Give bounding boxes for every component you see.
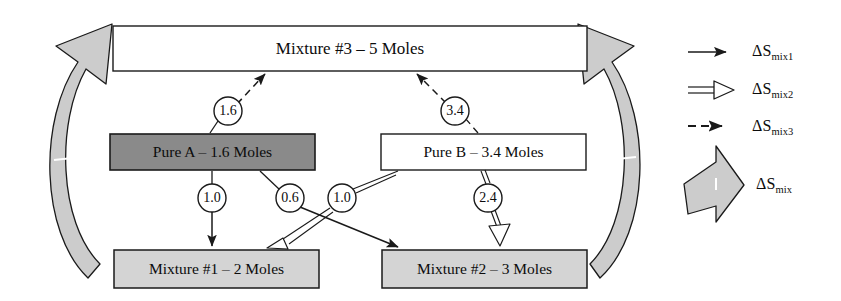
legend-label-dSmix: ΔSmix [756, 175, 792, 195]
legend-sub-dSmix2: mix2 [772, 89, 794, 100]
legend-base-dSmix: ΔS [756, 175, 776, 192]
node-box-pureB [381, 134, 586, 170]
diagram-canvas: Mixture #3 – 5 Moles Pure A – 1.6 Moles … [0, 0, 841, 301]
legend-base-dSmix2: ΔS [752, 80, 772, 97]
edge-pureB-mixture3 [417, 74, 478, 133]
node-box-mixture2 [382, 250, 587, 288]
legend-sub-dSmix1: mix1 [772, 51, 794, 62]
legend-base-dSmix3: ΔS [752, 117, 772, 134]
legend-base-dSmix1: ΔS [752, 42, 772, 59]
legend-sub-dSmix3: mix3 [772, 126, 794, 137]
legend-glyph-dSmix2 [688, 81, 734, 99]
diagram-svg [0, 0, 841, 301]
legend-sub-dSmix: mix [776, 184, 792, 195]
legend-label-dSmix2: ΔSmix2 [752, 80, 793, 100]
legend-glyph-dSmix [684, 146, 744, 222]
edge-pureA-mixture3 [210, 74, 265, 133]
legend-label-dSmix3: ΔSmix3 [752, 117, 793, 137]
legend-label-dSmix1: ΔSmix1 [752, 42, 793, 62]
node-box-mixture3 [113, 26, 587, 71]
edge-pureA-mixture1 [198, 171, 226, 246]
left-cycle-arrow [50, 24, 112, 278]
node-box-pureA [110, 134, 315, 170]
edge-pureB-mixture2 [474, 170, 510, 246]
node-box-mixture1 [114, 250, 319, 288]
